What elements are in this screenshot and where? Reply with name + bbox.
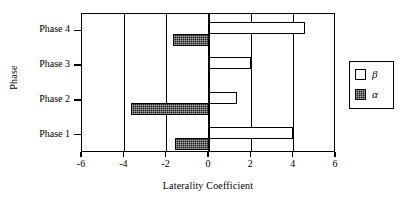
x-tick--6 <box>80 152 82 157</box>
y-tick-3 <box>74 64 81 66</box>
plot-area <box>81 13 335 152</box>
bar-beta-phase-2 <box>209 92 237 104</box>
y-tick-label-phase-2: Phase 2 <box>16 93 70 104</box>
gridline-x-4 <box>293 14 295 151</box>
y-tick-4 <box>74 30 81 32</box>
bar-alpha-phase-1 <box>175 138 209 150</box>
y-tick-1 <box>74 134 81 136</box>
x-tick-0 <box>207 152 209 157</box>
gridline-x--2 <box>166 14 168 151</box>
y-tick-2 <box>74 99 81 101</box>
bar-beta-phase-4 <box>209 22 305 34</box>
legend-swatch-beta-icon <box>355 69 366 80</box>
x-axis-title: Laterality Coefficient <box>81 180 335 191</box>
x-tick-label-4: 4 <box>278 158 308 169</box>
x-tick-label-2: 2 <box>235 158 265 169</box>
x-tick-label--4: -4 <box>108 158 138 169</box>
x-tick-label-0: 0 <box>193 158 223 169</box>
chart-legend: β α <box>349 61 394 109</box>
y-tick-label-phase-1: Phase 1 <box>16 128 70 139</box>
y-tick-label-phase-4: Phase 4 <box>16 23 70 34</box>
x-tick-2 <box>250 152 252 157</box>
x-tick-4 <box>292 152 294 157</box>
bar-alpha-phase-3 <box>208 69 210 81</box>
legend-entry-alpha: α <box>355 88 378 100</box>
laterality-coefficient-chart: Phase Laterality Coefficient Phase 1Phas… <box>0 0 404 207</box>
gridline-x--4 <box>124 14 126 151</box>
y-tick-label-phase-3: Phase 3 <box>16 58 70 69</box>
x-tick--4 <box>123 152 125 157</box>
legend-label-alpha: α <box>372 88 378 100</box>
x-tick-6 <box>334 152 336 157</box>
bar-beta-phase-3 <box>209 57 251 69</box>
bar-alpha-phase-2 <box>131 103 209 115</box>
legend-entry-beta: β <box>355 68 377 80</box>
x-tick--2 <box>165 152 167 157</box>
x-tick-label--6: -6 <box>66 158 96 169</box>
bar-beta-phase-1 <box>209 127 293 139</box>
x-tick-label--2: -2 <box>151 158 181 169</box>
legend-swatch-alpha-icon <box>355 89 366 100</box>
legend-label-beta: β <box>372 68 377 80</box>
bar-alpha-phase-4 <box>173 34 209 46</box>
x-tick-label-6: 6 <box>320 158 350 169</box>
